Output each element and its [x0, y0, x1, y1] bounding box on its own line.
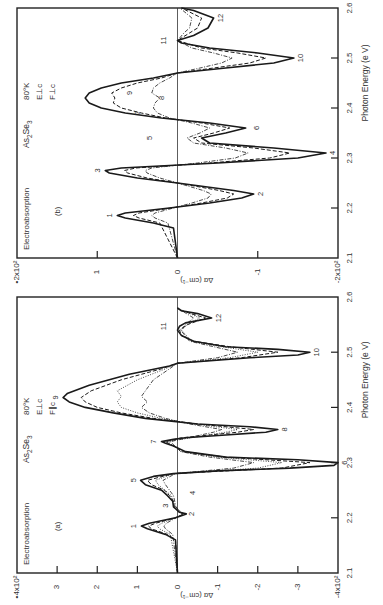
- y-tick-label: -4x10²: [333, 575, 342, 598]
- peak-label: 1: [129, 524, 138, 528]
- peak-label: 4: [188, 491, 197, 495]
- peak-label: 7: [133, 111, 142, 115]
- y-axis-title: Δα (cm⁻¹): [180, 276, 213, 285]
- x-tick-label: 2.2: [345, 202, 354, 214]
- peak-label: 9: [125, 91, 134, 95]
- y-tick-label: -2: [253, 583, 262, 591]
- x-tick-label: 2.2: [345, 512, 354, 524]
- peak-label: 12: [216, 14, 225, 22]
- peak-label: 10: [312, 348, 321, 356]
- y-tick-label: 0: [173, 269, 182, 274]
- y-tick-label: -1: [213, 583, 222, 591]
- series-curve: [85, 8, 326, 258]
- material-label: As2Se3: [21, 435, 33, 463]
- y-tick-label: •2x10²: [12, 260, 21, 283]
- x-tick-label: 2.1: [345, 252, 354, 264]
- peak-label: 9: [51, 395, 60, 399]
- temperature-label: 80°K: [22, 82, 31, 100]
- peak-label: 6: [252, 126, 261, 130]
- temperature-label: 80°K: [22, 397, 31, 415]
- polarization-label: E⊥c: [35, 399, 44, 415]
- material-label: As2Se3: [21, 120, 33, 148]
- x-tick-label: 2.1: [345, 567, 354, 579]
- panel-b-chart: 2.12.22.32.42.52.6Photon Energy (e V)•2x…: [12, 2, 370, 285]
- field-label: F∥c: [48, 402, 57, 415]
- peak-label: 8: [157, 96, 166, 100]
- x-tick-label: 2.6: [345, 2, 354, 14]
- electroabsorption-figure: 2.12.22.32.42.52.6Photon Energy (e V)•2x…: [0, 0, 383, 605]
- y-axis-title: Δα (cm⁻¹): [180, 591, 213, 600]
- peak-label: 12: [214, 314, 223, 322]
- x-axis-title: Photon Energy (e V): [360, 44, 370, 121]
- peak-label: 1: [105, 213, 114, 217]
- y-tick-label: 2: [92, 584, 101, 589]
- y-tick-label: -3: [293, 583, 302, 591]
- y-tick-label: -1: [253, 268, 262, 276]
- x-tick-label: 2.5: [345, 346, 354, 358]
- panel-title: Electroabsorption: [22, 188, 31, 250]
- field-label: F⊥c: [48, 84, 57, 100]
- panel-label: (b): [53, 206, 62, 216]
- panel-a-chart: 2.12.22.32.42.52.6Photon Energy (e V)•4x…: [12, 291, 370, 600]
- y-tick-label: •4x10²: [12, 575, 21, 598]
- peak-label: 11: [159, 322, 168, 330]
- polarization-label: E⊥c: [35, 84, 44, 100]
- peak-label: 7: [149, 440, 158, 444]
- x-tick-label: 2.4: [345, 102, 354, 114]
- peak-label: 5: [129, 478, 138, 482]
- peak-label: 11: [159, 37, 168, 45]
- peak-label: 6: [340, 461, 349, 465]
- y-tick-label: 1: [132, 584, 141, 589]
- x-tick-label: 2.5: [345, 52, 354, 64]
- panel-label: (a): [53, 521, 62, 531]
- peak-label: 5: [145, 136, 154, 140]
- peak-label: 8: [280, 427, 289, 431]
- y-tick-label: 3: [52, 584, 61, 589]
- peak-label: 3: [93, 168, 102, 172]
- y-tick-label: -2x10²: [333, 260, 342, 283]
- peak-label: 10: [296, 54, 305, 62]
- peak-label: 2: [188, 512, 197, 516]
- series-curve: [63, 308, 338, 573]
- y-tick-label: 1: [92, 269, 101, 274]
- x-tick-label: 2.4: [345, 401, 354, 413]
- peak-label: 3: [161, 504, 170, 508]
- peak-label: 2: [256, 192, 265, 196]
- x-tick-label: 2.3: [345, 152, 354, 164]
- x-tick-label: 2.6: [345, 291, 354, 303]
- y-tick-label: 0: [173, 584, 182, 589]
- series-curve: [81, 308, 310, 573]
- panel-title: Electroabsorption: [22, 503, 31, 565]
- x-axis-title: Photon Energy (e V): [360, 341, 370, 418]
- peak-label: 4: [328, 151, 337, 155]
